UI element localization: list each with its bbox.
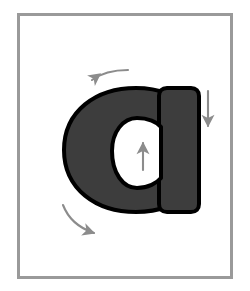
glyph-counter xyxy=(112,118,161,188)
glyph-stem xyxy=(159,88,199,212)
glyph-illustration xyxy=(0,0,250,291)
figure-root xyxy=(0,0,250,291)
arrow-bowl-top-icon xyxy=(92,70,128,80)
letter-a-glyph xyxy=(64,88,199,212)
glyph-stage xyxy=(0,0,250,291)
arrow-bowl-bottom-icon xyxy=(63,205,94,233)
